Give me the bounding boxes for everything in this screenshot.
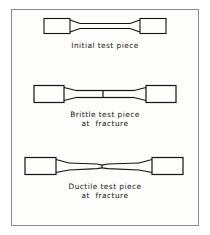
specimen-ductile: Ductile test piece at fracture <box>12 155 198 200</box>
caption-brittle-line-2: at fracture <box>12 120 198 129</box>
brittle-test-piece-drawing <box>32 83 178 106</box>
specimen-initial: Initial test piece <box>12 16 198 51</box>
figure-border: Initial test piece <box>11 9 199 226</box>
initial-test-piece-drawing <box>42 16 168 36</box>
caption-ductile-line-2: at fracture <box>12 192 198 201</box>
specimen-brittle: Brittle test piece at fracture <box>12 83 198 128</box>
ductile-test-piece-drawing <box>23 155 187 178</box>
caption-initial-line-1: Initial test piece <box>12 42 198 51</box>
